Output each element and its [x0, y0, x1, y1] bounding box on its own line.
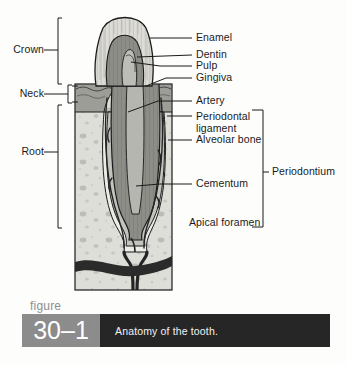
left-bracket-root [44, 105, 62, 228]
label-periodontal-ligament: Periodontal ligament [196, 110, 256, 134]
label-alveolar-bone: Alveolar bone [196, 134, 262, 146]
figure-word: figure [30, 299, 61, 313]
figure-number: 30–1 [33, 318, 89, 343]
left-bracket-neck [44, 85, 78, 103]
label-pulp: Pulp [196, 60, 217, 72]
label-root: Root [8, 146, 44, 158]
label-neck: Neck [8, 88, 44, 100]
label-enamel: Enamel [196, 32, 232, 44]
figure-caption-block: Anatomy of the tooth. [100, 314, 330, 347]
label-crown: Crown [8, 44, 44, 56]
label-artery: Artery [196, 95, 225, 107]
label-apical-foramen: Apical foramen [189, 217, 260, 229]
left-bracket-crown [44, 18, 62, 84]
label-cementum: Cementum [196, 178, 248, 190]
figure-number-block: 30–1 [22, 314, 100, 347]
pulp-chamber [122, 50, 137, 86]
root-canal-pulp [126, 84, 144, 214]
figure-container: Crown Neck Root Enamel Dentin Pulp Gingi… [0, 0, 347, 365]
tooth-crown [95, 18, 153, 87]
label-periodontium: Periodontium [272, 166, 335, 178]
tooth-anatomy-diagram [0, 0, 347, 300]
figure-caption-bar: 30–1 Anatomy of the tooth. [22, 314, 330, 347]
figure-caption-text: Anatomy of the tooth. [100, 325, 218, 337]
label-gingiva: Gingiva [196, 72, 232, 84]
